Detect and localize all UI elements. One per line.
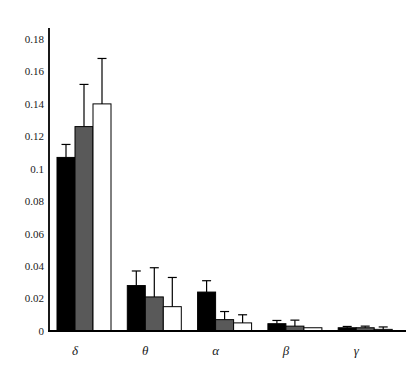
y-tick-label: 0.18 xyxy=(25,33,45,45)
bar-white-θ xyxy=(163,307,181,331)
y-tick-label: 0.16 xyxy=(25,65,45,77)
y-tick-label: 0.1 xyxy=(30,163,44,175)
x-category-label: β xyxy=(282,343,290,358)
bar-white-α xyxy=(234,323,252,331)
y-tick-label: 0.14 xyxy=(25,98,45,110)
bar-chart-svg: 00.020.040.060.080.10.120.140.160.18δθαβ… xyxy=(0,0,412,373)
bar-black-δ xyxy=(57,157,75,331)
bar-black-θ xyxy=(127,286,145,331)
x-category-label: θ xyxy=(142,343,149,358)
y-tick-label: 0.06 xyxy=(25,228,45,240)
bar-gray-θ xyxy=(145,297,163,331)
bar-black-α xyxy=(198,292,216,331)
figure: 00.020.040.060.080.10.120.140.160.18δθαβ… xyxy=(0,0,412,373)
bar-white-δ xyxy=(93,104,111,331)
y-tick-label: 0.04 xyxy=(25,260,45,272)
bar-gray-α xyxy=(216,320,234,331)
y-tick-label: 0.02 xyxy=(25,292,44,304)
x-category-label: δ xyxy=(72,343,79,358)
bar-gray-δ xyxy=(75,127,93,331)
y-tick-label: 0 xyxy=(39,325,45,337)
y-tick-label: 0.08 xyxy=(25,195,45,207)
bar-black-β xyxy=(268,324,286,331)
x-category-label: α xyxy=(212,343,220,358)
x-category-label: γ xyxy=(354,343,360,358)
y-tick-label: 0.12 xyxy=(25,130,44,142)
